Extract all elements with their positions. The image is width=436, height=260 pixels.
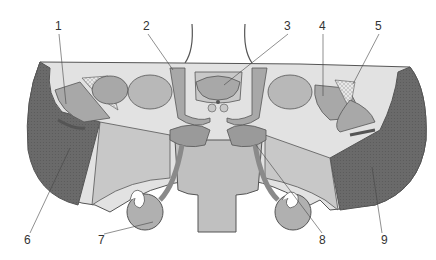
label-6: 6 [24, 234, 31, 246]
label-1: 1 [55, 20, 62, 32]
label-9: 9 [381, 234, 388, 246]
label-8: 8 [319, 234, 326, 246]
label-3: 3 [284, 20, 291, 32]
label-5: 5 [375, 20, 382, 32]
anatomical-cross-section-diagram [0, 0, 436, 260]
label-4: 4 [319, 20, 326, 32]
label-7: 7 [98, 234, 105, 246]
central-column [175, 140, 262, 232]
label-2: 2 [143, 20, 150, 32]
top-stems [185, 24, 252, 63]
